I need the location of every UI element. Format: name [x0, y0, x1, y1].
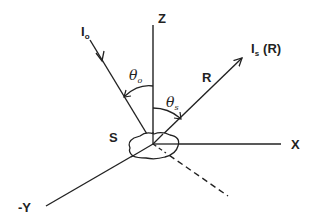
theta-o-arc: [125, 86, 153, 96]
x-axis-label: X: [291, 137, 300, 152]
vector-r-label: R: [202, 70, 212, 85]
neg-y-axis-label: -Y: [18, 200, 31, 215]
incident-intensity-label: Io: [81, 24, 90, 41]
z-axis-label: Z: [158, 11, 166, 26]
incident-ray: [90, 40, 153, 144]
surface-label: S: [109, 130, 118, 145]
scattering-diagram: Z X -Y S Io Is(R) R θo θs: [0, 0, 316, 222]
surface-patch: [129, 133, 179, 159]
theta-s-label: θs: [166, 94, 179, 112]
scattered-intensity-label: Is(R): [251, 41, 281, 58]
theta-o-label: θo: [129, 67, 142, 85]
